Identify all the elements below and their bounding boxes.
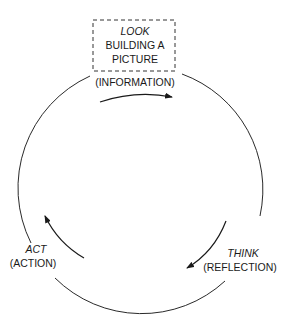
look-subtitle-line-2: PICTURE — [112, 53, 158, 65]
arrow-look-to-think-icon — [100, 94, 172, 102]
arrow-act-to-look-icon — [45, 216, 84, 258]
look-title: LOOK — [120, 25, 150, 37]
cycle-arc-bottom — [55, 278, 225, 314]
cycle-arc-right — [182, 74, 263, 216]
act-detail: (ACTION) — [10, 257, 57, 269]
act-title: ACT — [25, 243, 49, 255]
think-detail: (REFLECTION) — [203, 261, 277, 273]
think-title: THINK — [227, 247, 259, 259]
look-detail: (INFORMATION) — [95, 76, 175, 88]
look-subtitle-line-1: BUILDING A — [106, 39, 165, 51]
cycle-arc-left — [18, 76, 90, 243]
look-think-act-cycle-diagram: LOOK BUILDING A PICTURE (INFORMATION) TH… — [0, 0, 290, 327]
